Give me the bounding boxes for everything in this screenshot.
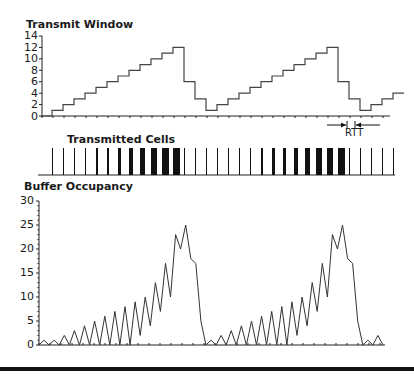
cell-bar: [371, 148, 372, 175]
cell-bar: [206, 148, 207, 175]
cell-bar: [316, 148, 322, 175]
cell-bar: [74, 148, 75, 175]
cell-bar: [52, 148, 53, 175]
rtt-arrowhead-left: [341, 123, 346, 128]
cell-bar: [360, 148, 361, 175]
cell-bar: [63, 148, 64, 175]
cell-bar: [151, 148, 157, 175]
bottom-rule: [0, 367, 414, 371]
cell-bar: [118, 148, 121, 175]
cell-bar: [184, 148, 185, 175]
cell-bar: [338, 148, 345, 175]
cell-bar: [382, 148, 383, 175]
cell-bar: [349, 148, 350, 175]
rtt-arrowhead-right: [356, 123, 361, 128]
cell-bar: [250, 148, 251, 175]
cell-bar: [261, 148, 263, 175]
cell-bar: [239, 148, 240, 175]
cell-bar: [272, 148, 275, 175]
cell-bar: [305, 148, 310, 175]
cell-bar: [107, 148, 109, 175]
cell-bar: [173, 148, 180, 175]
cell-bar: [195, 148, 196, 175]
cell-bar: [217, 148, 218, 175]
cell-bar: [294, 148, 298, 175]
cell-bar: [327, 148, 333, 175]
cell-bar: [162, 148, 169, 175]
cell-bar: [228, 148, 229, 175]
cell-bar: [129, 148, 133, 175]
cell-bar: [85, 148, 86, 175]
cell-bar: [283, 148, 286, 175]
cell-bar: [393, 148, 394, 175]
buffer-occupancy-line: [39, 225, 383, 345]
transmit-window-line: [41, 47, 404, 116]
cell-bar: [96, 148, 98, 175]
cell-bar: [140, 148, 145, 175]
diagram-canvas: [0, 0, 414, 379]
